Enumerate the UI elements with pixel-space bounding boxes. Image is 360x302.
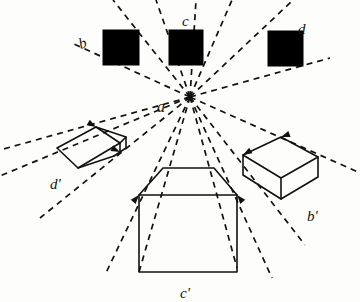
- label-d: d: [298, 22, 306, 37]
- figure-canvas: bcdad'b'c': [0, 0, 360, 302]
- box-c-prime-edge-1: [139, 195, 237, 272]
- ray-7-line: [190, 58, 330, 97]
- square-b: [103, 30, 139, 65]
- projected-boxes-group: [57, 127, 318, 272]
- label-d-prime: d': [50, 177, 61, 192]
- label-a: a: [157, 99, 165, 115]
- arrowheads-group: [87, 120, 291, 204]
- ray-11-line: [40, 97, 190, 218]
- box-c-prime-edge-0: [139, 168, 237, 195]
- label-c: c: [182, 14, 189, 29]
- box-c-prime: [139, 168, 237, 272]
- square-c: [169, 30, 203, 65]
- ray-13-line: [139, 97, 190, 272]
- ray-14-line: [190, 97, 237, 268]
- label-b-prime: b': [307, 209, 318, 224]
- perspective-diagram: [0, 0, 360, 302]
- ray-10-line: [190, 97, 360, 173]
- ray-16-line: [190, 97, 305, 245]
- box-b-prime: [243, 137, 318, 199]
- source-squares-group: [103, 30, 303, 66]
- box-b-prime-edge-0: [243, 137, 318, 178]
- label-c-prime: c': [180, 286, 190, 301]
